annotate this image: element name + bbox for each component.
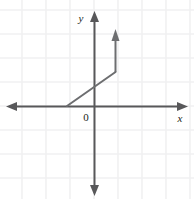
graph-figure: g (0, 0, 194, 199)
x-axis-label: x (177, 112, 183, 124)
y-axis-label: y (78, 12, 84, 24)
origin-label: 0 (83, 111, 89, 123)
coordinate-plane-svg: y x 0 (0, 0, 194, 199)
figure-background (0, 0, 194, 199)
